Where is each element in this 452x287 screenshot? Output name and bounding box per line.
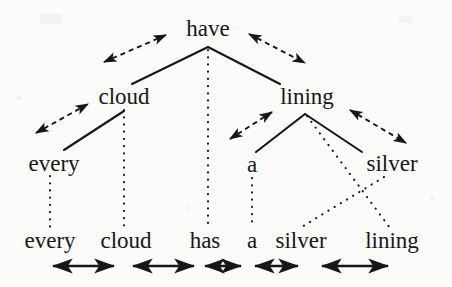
dashed-arrow-lining-silver — [350, 110, 406, 143]
tree-node-a: a — [247, 153, 257, 176]
surface-word-a: a — [247, 229, 257, 252]
surface-word-cloud: cloud — [100, 229, 151, 252]
edge-lining-silver — [305, 114, 362, 152]
figure-canvas: have cloud lining every a silver every c… — [0, 0, 452, 287]
tree-node-cloud: cloud — [98, 85, 149, 108]
dashed-arrow-lining-a — [230, 112, 272, 139]
edge-lining-a — [256, 114, 305, 152]
edge-cloud-every — [64, 111, 124, 150]
dashed-arrow-cloud-every — [36, 104, 88, 133]
edge-have-cloud — [132, 47, 208, 84]
dashed-arrow-have-cloud — [104, 35, 166, 62]
tree-node-have: have — [186, 17, 229, 40]
surface-word-has: has — [190, 229, 221, 252]
tree-node-silver: silver — [366, 152, 417, 175]
dashed-arrow-have-lining — [249, 34, 305, 63]
tree-node-lining: lining — [280, 85, 334, 108]
surface-word-lining: lining — [365, 229, 419, 252]
alignment-dotted-links — [50, 50, 390, 228]
tree-node-every: every — [28, 152, 79, 175]
surface-word-every: every — [24, 229, 75, 252]
surface-word-silver: silver — [275, 229, 326, 252]
edge-have-lining — [208, 47, 280, 84]
dashed-double-arrows — [36, 34, 406, 143]
